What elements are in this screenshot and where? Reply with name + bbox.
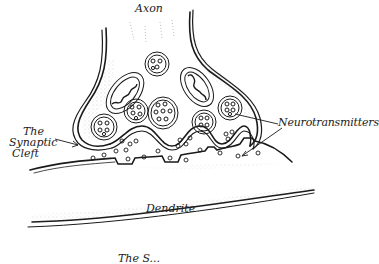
synaptic-vesicle: [192, 110, 216, 134]
synaptic-vesicle: [124, 99, 148, 123]
label-synaptic-cleft: The Synaptic Cleft: [9, 126, 58, 159]
axon-shading: [81, 20, 254, 142]
synaptic-vesicle: [148, 97, 178, 129]
label-neurotransmitters: Neurotransmitters: [278, 117, 379, 129]
label-dendrite: Dendrite: [146, 203, 195, 215]
axon-terminal: [73, 10, 262, 150]
label-axon: Axon: [135, 3, 163, 15]
label-bottom-partial: The S...: [118, 253, 160, 264]
synaptic-vesicle: [218, 96, 242, 120]
cleft-line-3: Cleft: [9, 148, 58, 159]
synaptic-vesicle: [145, 52, 169, 76]
